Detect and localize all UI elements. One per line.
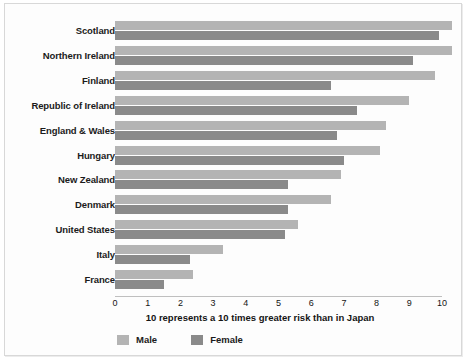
chart-row: Finland — [5, 70, 463, 94]
bar-female — [115, 81, 331, 90]
category-label: Scotland — [0, 25, 115, 36]
category-label: New Zealand — [0, 174, 115, 185]
bar-female — [115, 255, 190, 264]
y-axis-line — [114, 18, 115, 297]
category-label: United States — [0, 224, 115, 235]
bar-male — [115, 270, 193, 279]
bar-female — [115, 230, 285, 239]
category-label: Hungary — [0, 150, 115, 161]
bar-female — [115, 156, 344, 165]
x-tick-label: 1 — [136, 298, 160, 308]
legend-label: Male — [136, 334, 157, 345]
chart-row: United States — [5, 219, 463, 243]
x-tick-label: 5 — [267, 298, 291, 308]
category-label: Republic of Ireland — [0, 100, 115, 111]
x-tick-label: 7 — [332, 298, 356, 308]
legend-item-male[interactable]: Male — [117, 334, 157, 345]
bar-chart-plot-area: ScotlandNorthern IrelandFinlandRepublic … — [5, 4, 463, 357]
chart-row: Denmark — [5, 194, 463, 218]
category-label: Northern Ireland — [0, 50, 115, 61]
category-label: Italy — [0, 249, 115, 260]
bar-male — [115, 121, 386, 130]
chart-legend: MaleFemale — [117, 334, 243, 345]
bar-male — [115, 21, 452, 30]
bar-female — [115, 131, 337, 140]
bar-female — [115, 31, 439, 40]
chart-row: England & Wales — [5, 120, 463, 144]
bar-female — [115, 205, 288, 214]
category-label: Finland — [0, 75, 115, 86]
x-tick-label: 10 — [430, 298, 454, 308]
bar-male — [115, 146, 380, 155]
chart-row: Hungary — [5, 145, 463, 169]
chart-row: New Zealand — [5, 169, 463, 193]
bar-male — [115, 96, 409, 105]
bar-male — [115, 245, 223, 254]
chart-row: Italy — [5, 244, 463, 268]
chart-row: Scotland — [5, 20, 463, 44]
bar-female — [115, 56, 413, 65]
bar-male — [115, 220, 298, 229]
bar-female — [115, 280, 164, 289]
bar-male — [115, 170, 341, 179]
bar-female — [115, 106, 357, 115]
x-tick-label: 8 — [365, 298, 389, 308]
category-label: Denmark — [0, 199, 115, 210]
chart-row: Northern Ireland — [5, 45, 463, 69]
bar-male — [115, 46, 452, 55]
category-label: England & Wales — [0, 125, 115, 136]
x-tick-label: 9 — [397, 298, 421, 308]
legend-label: Female — [210, 334, 243, 345]
category-label: France — [0, 274, 115, 285]
x-tick-label: 2 — [168, 298, 192, 308]
bar-female — [115, 180, 288, 189]
bar-male — [115, 71, 435, 80]
legend-swatch-icon — [117, 335, 129, 345]
x-tick-label: 6 — [299, 298, 323, 308]
legend-swatch-icon — [191, 335, 203, 345]
bar-male — [115, 195, 331, 204]
x-tick-label: 0 — [103, 298, 127, 308]
x-tick-label: 3 — [201, 298, 225, 308]
x-tick-label: 4 — [234, 298, 258, 308]
chart-row: Republic of Ireland — [5, 95, 463, 119]
legend-item-female[interactable]: Female — [191, 334, 243, 345]
x-axis-line — [115, 296, 442, 297]
x-axis-caption: 10 represents a 10 times greater risk th… — [5, 312, 463, 323]
chart-frame: ScotlandNorthern IrelandFinlandRepublic … — [4, 3, 462, 356]
chart-row: France — [5, 269, 463, 293]
